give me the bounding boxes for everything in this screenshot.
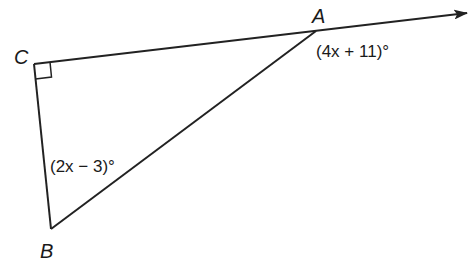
side-cb — [34, 64, 51, 229]
side-ba — [51, 31, 316, 229]
vertex-label-b: B — [40, 240, 53, 262]
right-angle-marker — [36, 62, 52, 79]
angle-label-a: (4x + 11)° — [316, 42, 389, 61]
ray-ca — [34, 13, 467, 64]
vertex-label-a: A — [311, 5, 325, 27]
vertex-label-c: C — [14, 46, 29, 68]
angle-label-b: (2x − 3)° — [50, 157, 115, 176]
triangle-diagram: C A B (4x + 11)° (2x − 3)° — [0, 0, 470, 272]
